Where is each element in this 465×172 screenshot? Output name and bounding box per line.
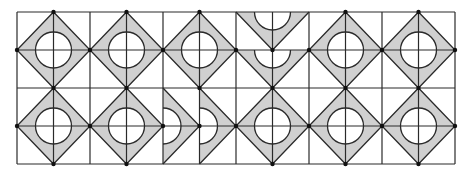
vertex-dot [51, 10, 55, 14]
vertex-dot [270, 86, 274, 90]
vertex-dot [270, 162, 274, 166]
vertex-dot [416, 10, 420, 14]
vertex-dot [234, 48, 238, 52]
vertex-dot [88, 48, 92, 52]
grid-lines [17, 12, 455, 164]
vertex-dot [197, 86, 201, 90]
vertex-dot [197, 124, 201, 128]
vertex-dot [416, 86, 420, 90]
vertex-dot [343, 162, 347, 166]
vertex-dot [453, 48, 457, 52]
vertex-dot [124, 10, 128, 14]
tile-pattern-diagram [0, 0, 465, 172]
vertex-dot [416, 162, 420, 166]
vertex-dot [88, 124, 92, 128]
vertex-dot [380, 124, 384, 128]
vertex-dot [161, 48, 165, 52]
vertex-dot [234, 124, 238, 128]
vertex-dot [343, 86, 347, 90]
vertex-dot [161, 124, 165, 128]
vertex-dot [453, 124, 457, 128]
vertex-dot [380, 48, 384, 52]
vertex-dot [124, 86, 128, 90]
vertex-dot [124, 162, 128, 166]
vertex-dot [197, 10, 201, 14]
vertex-dot [15, 124, 19, 128]
vertex-dot [343, 10, 347, 14]
vertex-dot [51, 86, 55, 90]
vertex-dot [307, 48, 311, 52]
vertex-dot [15, 48, 19, 52]
vertex-dot [307, 124, 311, 128]
vertex-dot [51, 162, 55, 166]
vertex-dot [270, 48, 274, 52]
